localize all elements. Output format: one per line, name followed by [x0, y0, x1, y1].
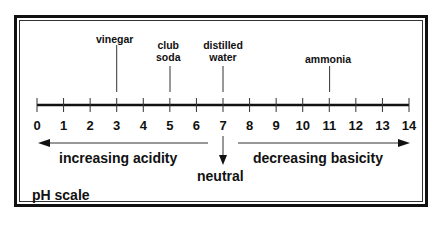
tick-label: 12	[344, 118, 368, 133]
tick-label: 8	[238, 118, 262, 133]
label-ammonia: ammonia	[305, 53, 351, 65]
tick-label: 7	[211, 118, 235, 133]
tick-label: 9	[264, 118, 288, 133]
ph-scale-title: pH scale	[32, 187, 90, 203]
distilled-water-line1: distilled	[200, 39, 246, 51]
tick-label: 5	[158, 118, 182, 133]
distilled-water-line2: water	[200, 51, 246, 63]
label-distilled-water: distilled water	[200, 39, 246, 63]
tick-label: 4	[131, 118, 155, 133]
tick-label: 2	[78, 118, 102, 133]
tick-label: 14	[397, 118, 421, 133]
label-vinegar: vinegar	[96, 33, 133, 45]
label-club-soda: club soda	[156, 39, 181, 63]
tick-label: 3	[105, 118, 129, 133]
club-soda-line1: club	[156, 39, 181, 51]
increasing-acidity-label: increasing acidity	[59, 150, 177, 166]
decreasing-basicity-label: decreasing basicity	[253, 150, 383, 166]
tick-label: 13	[370, 118, 394, 133]
neutral-label: neutral	[197, 168, 244, 184]
tick-label: 0	[25, 118, 49, 133]
club-soda-line2: soda	[156, 51, 181, 63]
tick-label: 11	[317, 118, 341, 133]
tick-label: 1	[52, 118, 76, 133]
tick-label: 6	[184, 118, 208, 133]
tick-label: 10	[291, 118, 315, 133]
